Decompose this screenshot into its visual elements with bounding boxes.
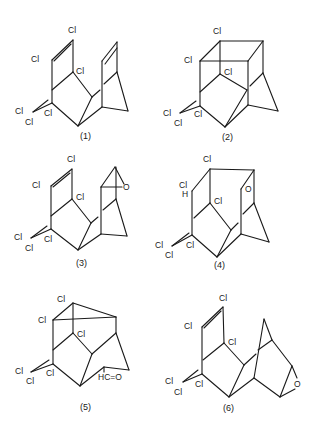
structure-caption: (1) (80, 131, 91, 141)
ketone-oxygen-label: O (245, 184, 252, 194)
atom-label: Cl (15, 366, 23, 376)
atom-label: Cl (224, 67, 232, 77)
structures-figure: Cl Cl Cl Cl Cl Cl (1) Cl (0, 0, 316, 433)
structure-caption: (3) (76, 258, 87, 268)
atom-label: Cl (219, 293, 227, 303)
atom-label: Cl (194, 109, 202, 119)
atom-label: Cl (46, 368, 54, 378)
atom-label: Cl (184, 321, 192, 331)
structure-caption: (2) (222, 132, 233, 142)
atom-label: Cl (68, 25, 76, 35)
atom-label: Cl (195, 379, 203, 389)
atom-label: Cl (77, 329, 85, 339)
atom-label: Cl (32, 180, 40, 190)
structure-5: Cl Cl Cl Cl Cl Cl HC=O (5) (15, 294, 129, 412)
atom-label: Cl (44, 108, 52, 118)
atom-label: Cl (165, 250, 173, 260)
atom-label: Cl (165, 376, 173, 386)
structure-3: Cl Cl Cl Cl Cl Cl O (3) (14, 154, 130, 268)
atom-label: Cl (31, 54, 39, 64)
atom-label: Cl (25, 243, 33, 253)
atom-label: Cl (76, 192, 84, 202)
epoxide-oxygen-label: O (294, 379, 301, 389)
atom-label: Cl (14, 232, 22, 242)
atom-label: Cl (174, 387, 182, 397)
atom-label: Cl (44, 234, 52, 244)
atom-label: Cl (228, 337, 236, 347)
atom-label: Cl (26, 376, 34, 386)
hydrogen-label: H (182, 189, 188, 199)
atom-label: Cl (155, 240, 163, 250)
atom-label: Cl (184, 55, 192, 65)
atom-label: Cl (186, 240, 194, 250)
atom-label: Cl (38, 315, 46, 325)
atom-label: Cl (163, 108, 171, 118)
atom-label: Cl (214, 196, 222, 206)
atom-label: Cl (67, 154, 75, 164)
atom-label: Cl (15, 106, 23, 116)
structure-4: Cl Cl H Cl Cl Cl Cl O (4) (155, 154, 269, 270)
aldehyde-label: HC=O (98, 372, 122, 382)
atom-label: Cl (174, 118, 182, 128)
structure-2: Cl Cl Cl Cl Cl Cl (2) (163, 26, 278, 142)
structure-caption: (6) (223, 403, 234, 413)
atom-label: Cl (213, 26, 221, 36)
structure-1: Cl Cl Cl Cl Cl Cl (1) (15, 25, 128, 141)
structure-caption: (5) (80, 402, 91, 412)
epoxide-oxygen-label: O (123, 182, 130, 192)
atom-label: Cl (25, 117, 33, 127)
atom-label: Cl (57, 294, 65, 304)
atom-label: Cl (203, 154, 211, 164)
structure-6: Cl Cl Cl Cl Cl Cl O (6) (165, 293, 301, 413)
structure-caption: (4) (214, 260, 225, 270)
atom-label: Cl (76, 66, 84, 76)
